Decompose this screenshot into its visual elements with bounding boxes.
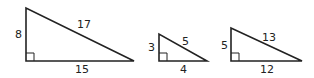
t3-hyp-label: 13 [262,31,276,44]
t1-vertical-label: 8 [15,28,22,41]
t3-vertical-label: 5 [221,39,228,52]
t2-base-label: 4 [180,63,187,76]
t1-base-label: 15 [75,63,89,76]
t3-base-label: 12 [260,63,274,76]
t2-vertical-label: 3 [148,41,155,54]
right-triangles-diagram: 8 17 15 3 5 4 5 13 12 [0,0,314,78]
t1-hyp-label: 17 [77,18,91,31]
triangles-svg: 8 17 15 3 5 4 5 13 12 [0,0,314,78]
triangle-8-15-17 [26,8,134,61]
t2-hyp-label: 5 [182,35,189,48]
